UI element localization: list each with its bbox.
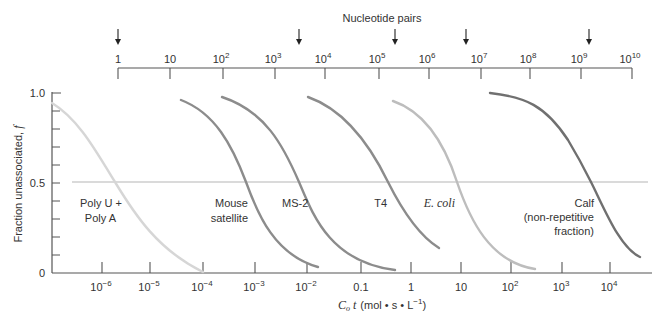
top-axis: Nucleotide pairs 1 10: [115, 12, 641, 79]
y-tick-label: 0.5: [30, 177, 45, 189]
top-tick-label: 105: [369, 51, 386, 65]
arrow-markers: [115, 29, 592, 45]
x-tick-label: 10−4: [191, 279, 213, 293]
x-axis-title: Co t(mol • s • L−1): [338, 297, 426, 313]
top-tick-label: 1010: [619, 51, 641, 65]
top-tick-label: 103: [265, 51, 282, 65]
label-calf-fraction: fraction): [554, 225, 594, 237]
x-tick-label: 10−2: [295, 279, 317, 293]
x-tick-label: 1: [408, 281, 414, 293]
top-tick-label: 104: [315, 51, 332, 65]
curve-t4: [308, 97, 439, 248]
cot-curve-chart: Nucleotide pairs 1 10: [0, 0, 665, 318]
label-t4: T4: [374, 197, 387, 209]
curve-mouse-satellite: [181, 100, 318, 267]
arrow-down-icon: [586, 29, 592, 45]
arrow-down-icon: [115, 29, 121, 45]
x-axis-tick-labels: 10−6 10−5 10−4 10−3 10−2 0.1 1 10 102 10…: [90, 279, 618, 293]
label-calf: Calf: [574, 197, 595, 209]
curve-ms2: [222, 97, 395, 270]
top-axis-tick-labels: 1 10 102 103 104 105 106 107 108 109 101…: [115, 51, 641, 65]
top-tick-label: 102: [213, 51, 230, 65]
x-tick-label: 10−6: [90, 279, 112, 293]
label-mouse: Mouse: [215, 197, 248, 209]
y-tick-label: 1.0: [30, 87, 45, 99]
top-axis-ticks: [118, 68, 632, 79]
x-tick-label: 104: [601, 279, 618, 293]
label-calf-nonrepetitive: (non-repetitive: [524, 211, 594, 223]
x-tick-label: 10−5: [138, 279, 160, 293]
label-polyu: Poly U +: [80, 197, 122, 209]
y-tick-label: 0: [39, 267, 45, 279]
label-ms2: MS-2: [282, 197, 308, 209]
x-tick-label: 103: [553, 279, 570, 293]
arrow-down-icon: [463, 29, 469, 45]
top-tick-label: 1: [115, 53, 121, 65]
y-axis-ticks: [52, 93, 61, 255]
top-tick-label: 108: [520, 51, 537, 65]
y-axis: 1.0 0.5 0 Fraction unassociated, f: [11, 87, 61, 279]
arrow-down-icon: [296, 29, 302, 45]
top-tick-label: 109: [571, 51, 588, 65]
x-axis: 10−6 10−5 10−4 10−3 10−2 0.1 1 10 102 10…: [52, 262, 652, 313]
curve-polyu-polya: [52, 103, 203, 272]
label-ecoli: E. coli: [423, 196, 455, 210]
top-tick-label: 10: [164, 53, 176, 65]
label-satellite: satellite: [211, 212, 248, 224]
x-tick-label: 10−3: [243, 279, 265, 293]
x-axis-ticks: [102, 262, 610, 273]
x-tick-label: 0.1: [353, 281, 368, 293]
x-tick-label: 102: [502, 279, 519, 293]
y-axis-title: Fraction unassociated, f: [11, 124, 25, 243]
curve-ecoli: [393, 101, 535, 269]
top-tick-label: 106: [419, 51, 436, 65]
arrow-down-icon: [392, 29, 398, 45]
top-tick-label: 107: [471, 51, 488, 65]
label-polya: Poly A: [85, 212, 117, 224]
x-tick-label: 10: [455, 281, 467, 293]
top-axis-title: Nucleotide pairs: [343, 12, 422, 24]
series-labels: Poly U + Poly A Mouse satellite MS-2 T4 …: [80, 196, 595, 237]
